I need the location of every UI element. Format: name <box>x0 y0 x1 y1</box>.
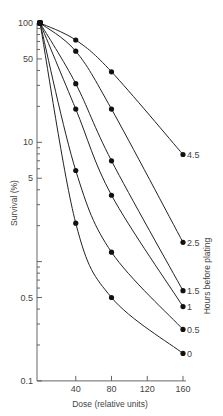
right-axis-title: Hours before plating <box>202 237 212 314</box>
curve-label: 4.5 <box>187 150 200 160</box>
y-tick-label: 10 <box>23 137 33 147</box>
curve-label: 2.5 <box>187 238 200 248</box>
curve-label: 1 <box>187 302 192 312</box>
y-tick-label: 0.5 <box>20 293 33 303</box>
data-point <box>73 221 78 226</box>
survival-chart: 100501050.50.14080120160 4.52.51.510.50 … <box>0 0 223 416</box>
y-tick-label: 100 <box>18 18 33 28</box>
data-point <box>180 240 185 245</box>
curve-4.5h <box>40 23 183 155</box>
y-tick-label: 50 <box>23 54 33 64</box>
data-point <box>180 327 185 332</box>
data-point <box>109 250 114 255</box>
data-point <box>180 288 185 293</box>
curve-1h <box>40 23 183 307</box>
curve-0.5h <box>40 23 183 329</box>
data-point <box>109 158 114 163</box>
data-point <box>73 37 78 42</box>
data-point <box>73 49 78 54</box>
data-point <box>109 193 114 198</box>
data-point <box>109 106 114 111</box>
y-tick-label: 0.1 <box>20 376 33 386</box>
data-point <box>180 152 185 157</box>
curve-2.5h <box>40 23 183 242</box>
data-point <box>109 295 114 300</box>
data-point <box>180 304 185 309</box>
curves <box>37 20 186 356</box>
curve-label: 0.5 <box>187 325 200 335</box>
y-tick-label: 5 <box>28 173 33 183</box>
labels: 4.52.51.510.50 <box>187 150 200 359</box>
data-point <box>180 351 185 356</box>
data-point <box>73 106 78 111</box>
x-tick-label: 120 <box>140 384 155 394</box>
data-point <box>109 69 114 74</box>
x-axis-title: Dose (relative units) <box>72 399 148 409</box>
x-tick-label: 160 <box>175 384 190 394</box>
x-tick-label: 40 <box>71 384 81 394</box>
y-axis-title: Survival (%) <box>9 180 19 226</box>
curve-label: 1.5 <box>187 286 200 296</box>
x-tick-label: 80 <box>106 384 116 394</box>
curve-label: 0 <box>187 349 192 359</box>
data-point <box>73 81 78 86</box>
data-point <box>37 20 43 26</box>
data-point <box>73 168 78 173</box>
axes: 100501050.50.14080120160 <box>18 18 191 394</box>
